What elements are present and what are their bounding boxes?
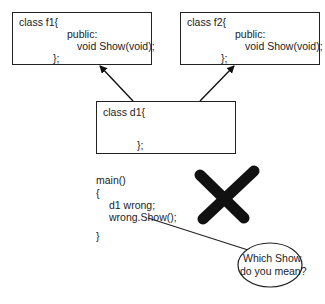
inheritance-arrow-f2 xyxy=(200,66,234,101)
class-f2-method: void Show(void); xyxy=(245,40,323,52)
class-f2-access: public: xyxy=(235,28,265,40)
class-f2-close: }; xyxy=(221,52,227,64)
main-signature: main() xyxy=(96,174,126,186)
speech-bubble-line1: Which Show xyxy=(243,252,299,265)
main-call: wrong.Show(); xyxy=(109,211,177,223)
error-x-icon xyxy=(200,171,254,219)
speech-bubble-line2: do you mean? xyxy=(240,265,302,278)
main-declaration: d1 wrong; xyxy=(109,199,155,211)
class-d1-header: class d1{ xyxy=(103,106,145,118)
class-f1-access: public: xyxy=(67,28,97,40)
class-f2-box: class f2{ public: void Show(void); }; xyxy=(180,12,320,65)
main-open-brace: { xyxy=(96,187,100,199)
class-f1-method: void Show(void); xyxy=(77,40,155,52)
class-f2-header: class f2{ xyxy=(187,16,226,28)
class-d1-box: class d1{ }; xyxy=(96,101,236,154)
class-f1-close: }; xyxy=(53,52,59,64)
class-d1-close: }; xyxy=(137,139,143,151)
class-f1-header: class f1{ xyxy=(19,16,58,28)
main-close-brace: } xyxy=(96,230,100,242)
class-f1-box: class f1{ public: void Show(void); }; xyxy=(12,12,152,65)
inheritance-arrow-f1 xyxy=(100,66,133,101)
